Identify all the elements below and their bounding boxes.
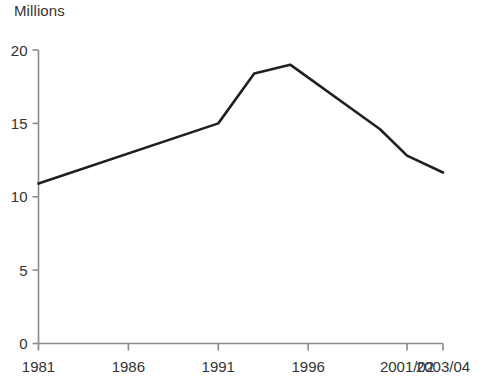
y-axis-tick-label: 10 (11, 188, 28, 205)
x-axis-ticks (39, 344, 444, 351)
y-axis-tick-label: 5 (19, 262, 27, 279)
y-axis-tick-labels: 05101520 (11, 42, 28, 353)
x-axis-tick-label: 1996 (291, 358, 324, 375)
x-axis-tick-labels: 19811986199119962001/022003/04 (22, 358, 470, 375)
y-axis-tick-label: 15 (11, 115, 28, 132)
line-chart-plot: 05101520 19811986199119962001/022003/04 (0, 0, 486, 382)
y-axis-tick-label: 20 (11, 42, 28, 59)
x-axis-group: 19811986199119962001/022003/04 (22, 344, 470, 375)
x-axis-tick-label: 1991 (202, 358, 235, 375)
chart-container: Millions 05101520 19811986199119962001/0… (0, 0, 486, 382)
y-axis-group: 05101520 (11, 42, 39, 353)
y-axis-ticks (33, 50, 39, 344)
series-line-millions (39, 65, 444, 184)
data-series-group (39, 65, 444, 184)
x-axis-tick-label: 1981 (22, 358, 55, 375)
y-axis-tick-label: 0 (19, 335, 27, 352)
x-axis-tick-label: 1986 (112, 358, 145, 375)
x-axis-tick-label: 2003/04 (416, 358, 470, 375)
